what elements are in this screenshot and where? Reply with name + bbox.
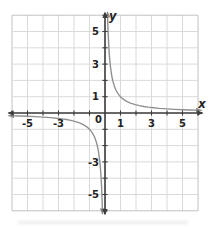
x-axis-label: x: [197, 97, 206, 111]
x-tick-label: 1: [117, 118, 124, 129]
y-tick-label: -3: [88, 157, 99, 168]
y-tick-label: -5: [88, 189, 99, 200]
origin-label: 0: [95, 114, 102, 125]
x-tick-label: 3: [148, 118, 155, 129]
y-tick-label: 5: [92, 26, 99, 37]
scan-shadow: [18, 221, 188, 224]
x-tick-label: -3: [53, 118, 64, 129]
axes: [9, 13, 203, 215]
curve-branch-positive: [108, 12, 202, 110]
y-tick-label: 3: [92, 59, 99, 70]
function-graph-figure: -5-3135531-3-50xy: [0, 0, 214, 228]
tick-labels: -5-3135531-3-50xy: [22, 9, 206, 200]
y-tick-label: 1: [92, 91, 99, 102]
y-axis-label: y: [109, 9, 117, 23]
reciprocal-function-plot: -5-3135531-3-50xy: [0, 0, 214, 228]
x-tick-label: -5: [22, 118, 33, 129]
x-tick-label: 5: [179, 118, 186, 129]
